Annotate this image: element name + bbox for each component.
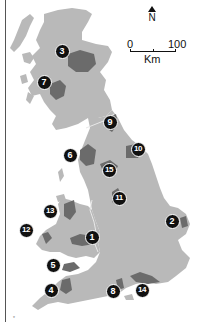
park-marker-13[interactable]: 13 (43, 204, 58, 219)
scale-unit-label: Km (144, 53, 161, 65)
north-compass: N (145, 6, 159, 23)
park-marker-10[interactable]: 10 (131, 142, 146, 157)
park-marker-6[interactable]: 6 (63, 148, 78, 163)
scale-tick-start (130, 49, 131, 52)
outer-hebrides (10, 14, 34, 52)
park-marker-14[interactable]: 14 (135, 283, 150, 298)
inner-hebrides (20, 52, 34, 104)
park-marker-7[interactable]: 7 (37, 75, 52, 90)
park-marker-5[interactable]: 5 (46, 258, 61, 273)
footnote-mark: * (13, 315, 15, 321)
scale-bar: 0 100 Km (124, 38, 184, 68)
isle-of-wight (124, 294, 134, 300)
scotland-landmass (28, 8, 112, 130)
park-marker-1[interactable]: 1 (85, 230, 100, 245)
scale-end-label: 100 (168, 38, 186, 50)
park-marker-15[interactable]: 15 (102, 163, 117, 178)
north-label: N (145, 12, 159, 23)
park-marker-11[interactable]: 11 (112, 191, 127, 206)
scale-tick-mid (153, 49, 154, 52)
isle-of-man (58, 168, 64, 182)
park-marker-8[interactable]: 8 (106, 284, 121, 299)
park-marker-9[interactable]: 9 (103, 115, 118, 130)
park-exmoor (62, 262, 80, 272)
scale-tick-end (175, 49, 176, 52)
park-marker-4[interactable]: 4 (44, 283, 59, 298)
park-marker-2[interactable]: 2 (165, 214, 180, 229)
park-marker-12[interactable]: 12 (19, 223, 34, 238)
park-marker-3[interactable]: 3 (55, 44, 70, 59)
